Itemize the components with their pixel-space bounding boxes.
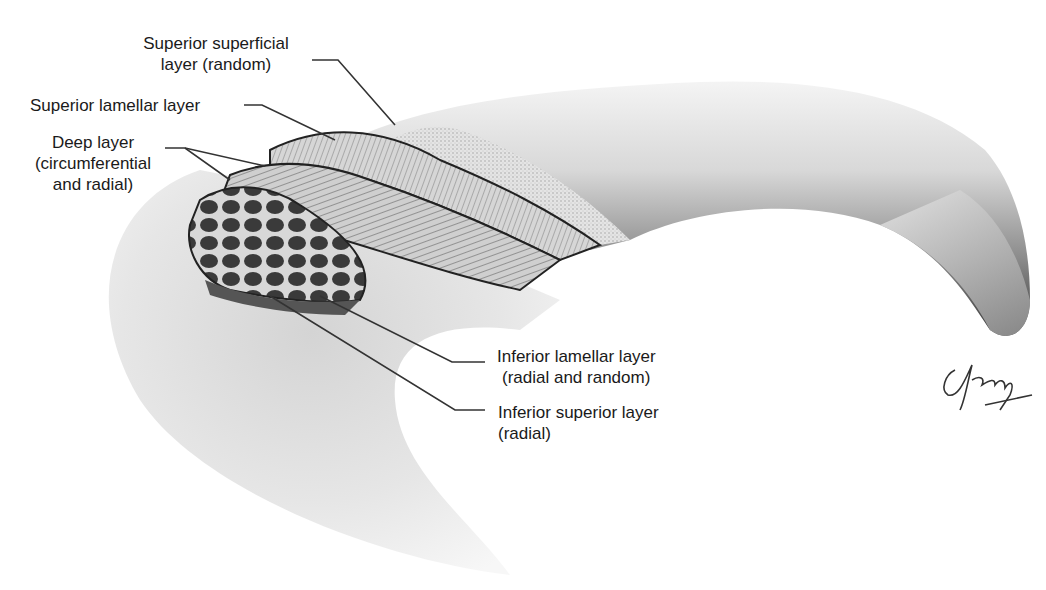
label-superior-superficial: Superior superficial layer (random): [118, 33, 314, 75]
meniscus-illustration: [0, 0, 1046, 590]
label-inferior-lamellar: Inferior lamellar layer (radial and rand…: [497, 346, 656, 388]
label-deep-layer: Deep layer (circumferential and radial): [18, 132, 168, 195]
leader-superior-superficial: [312, 60, 395, 125]
label-superior-lamellar: Superior lamellar layer: [30, 95, 200, 116]
artist-signature: [944, 365, 1032, 410]
label-inferior-superior: Inferior superior layer (radial): [498, 402, 659, 444]
